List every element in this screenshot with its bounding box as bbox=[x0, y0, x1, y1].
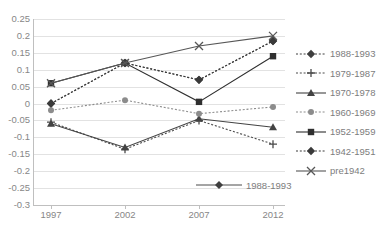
legend-item-1952-1959[interactable]: 1952-1959 bbox=[296, 122, 392, 142]
legend-label: pre1942 bbox=[326, 165, 365, 176]
legend-item-1979-1987[interactable]: 1979-1987 bbox=[296, 64, 392, 84]
legend-label: 1960-1969 bbox=[326, 107, 375, 118]
legend-label: 1988-1993 bbox=[326, 48, 375, 59]
chart-container: 0.250.20.150.10.050-0.05-0.1-0.15-0.2-0.… bbox=[0, 0, 392, 236]
x-tick-label: 2007 bbox=[179, 209, 219, 220]
x-tick-label: 1997 bbox=[31, 209, 71, 220]
y-tick-label: 0.25 bbox=[0, 14, 30, 23]
chart-legend: 1988-19931979-19871970-19781960-19691952… bbox=[296, 44, 392, 181]
gridline bbox=[33, 104, 285, 105]
legend-label: 1970-1978 bbox=[326, 87, 375, 98]
gridline bbox=[33, 36, 285, 37]
overflow-legend-key-icon bbox=[196, 178, 242, 192]
y-tick-label: -0.25 bbox=[0, 183, 30, 192]
gridline bbox=[33, 70, 285, 71]
x-axis-line bbox=[33, 205, 285, 206]
gridline bbox=[33, 87, 285, 88]
legend-key-icon bbox=[296, 66, 326, 80]
y-tick-label: 0.05 bbox=[0, 82, 30, 91]
legend-item-1960-1969[interactable]: 1960-1969 bbox=[296, 103, 392, 123]
gridline bbox=[33, 120, 285, 121]
legend-key-icon bbox=[296, 164, 326, 178]
y-tick-label: 0.2 bbox=[0, 31, 30, 40]
legend-key-icon bbox=[296, 125, 326, 139]
gridline bbox=[33, 137, 285, 138]
overflow-legend-label: 1988-1993 bbox=[242, 180, 291, 191]
legend-item-1942-1951[interactable]: 1942-1951 bbox=[296, 142, 392, 162]
legend-item-pre1942[interactable]: pre1942 bbox=[296, 161, 392, 181]
y-tick-label: 0.15 bbox=[0, 48, 30, 57]
gridline bbox=[33, 53, 285, 54]
y-tick-label: -0.2 bbox=[0, 166, 30, 175]
y-tick-label: -0.05 bbox=[0, 115, 30, 124]
x-tick-label: 2002 bbox=[105, 209, 145, 220]
overflow-legend-item[interactable]: 1988-1993 bbox=[196, 178, 291, 192]
legend-label: 1952-1959 bbox=[326, 126, 375, 137]
gridline bbox=[33, 154, 285, 155]
y-tick-label: 0 bbox=[0, 99, 30, 108]
legend-item-1970-1978[interactable]: 1970-1978 bbox=[296, 83, 392, 103]
gridline bbox=[33, 171, 285, 172]
y-tick-label: -0.15 bbox=[0, 149, 30, 158]
legend-key-icon bbox=[296, 86, 326, 100]
y-tick-label: 0.1 bbox=[0, 65, 30, 74]
y-axis-tick-labels: 0.250.20.150.10.050-0.05-0.1-0.15-0.2-0.… bbox=[0, 19, 30, 205]
legend-label: 1942-1951 bbox=[326, 146, 375, 157]
legend-key-icon bbox=[296, 47, 326, 61]
y-tick-label: -0.1 bbox=[0, 132, 30, 141]
legend-key-icon bbox=[296, 105, 326, 119]
legend-item-1988-1993[interactable]: 1988-1993 bbox=[296, 44, 392, 64]
gridline bbox=[33, 19, 285, 20]
x-tick-label: 2012 bbox=[253, 209, 293, 220]
y-axis-line bbox=[33, 19, 34, 206]
legend-label: 1979-1987 bbox=[326, 68, 375, 79]
y-tick-label: -0.3 bbox=[0, 200, 30, 209]
legend-key-icon bbox=[296, 144, 326, 158]
